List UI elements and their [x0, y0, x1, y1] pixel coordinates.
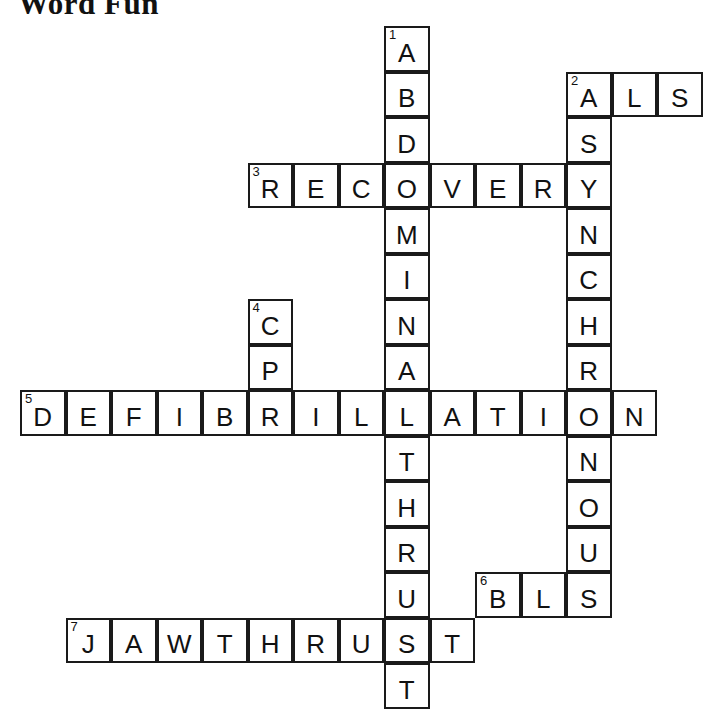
- crossword-cell[interactable]: B: [202, 390, 248, 436]
- cell-letter: L: [386, 402, 428, 432]
- cell-letter: T: [386, 675, 428, 705]
- crossword-cell[interactable]: O: [566, 390, 612, 436]
- crossword-cell[interactable]: C: [566, 254, 612, 300]
- cell-letter: P: [250, 356, 292, 386]
- crossword-cell[interactable]: O: [384, 163, 430, 209]
- crossword-cell[interactable]: T: [475, 390, 521, 436]
- crossword-cell[interactable]: N: [384, 299, 430, 345]
- crossword-cell[interactable]: L: [339, 390, 385, 436]
- cell-letter: T: [204, 629, 246, 659]
- cell-letter: I: [295, 402, 337, 432]
- cell-letter: R: [250, 174, 292, 204]
- crossword-cell[interactable]: N: [566, 208, 612, 254]
- crossword-cell[interactable]: H: [384, 481, 430, 527]
- crossword-cell[interactable]: R: [384, 527, 430, 573]
- cell-letter: I: [523, 402, 565, 432]
- crossword-cell[interactable]: R: [566, 345, 612, 391]
- crossword-cell[interactable]: D: [384, 117, 430, 163]
- crossword-cell[interactable]: T: [384, 663, 430, 709]
- cell-letter: A: [386, 38, 428, 68]
- crossword-cell[interactable]: W: [157, 618, 203, 664]
- crossword-cell[interactable]: S: [566, 117, 612, 163]
- cell-letter: V: [432, 174, 474, 204]
- crossword-cell[interactable]: P: [248, 345, 294, 391]
- crossword-cell[interactable]: R: [521, 163, 567, 209]
- cell-letter: R: [568, 356, 610, 386]
- crossword-cell[interactable]: M: [384, 208, 430, 254]
- cell-letter: I: [386, 265, 428, 295]
- crossword-cell[interactable]: N: [612, 390, 658, 436]
- cell-letter: S: [659, 83, 701, 113]
- crossword-cell[interactable]: T: [384, 436, 430, 482]
- cell-letter: A: [386, 356, 428, 386]
- crossword-cell[interactable]: C: [339, 163, 385, 209]
- crossword-cell[interactable]: I: [157, 390, 203, 436]
- crossword-cell[interactable]: 7J: [66, 618, 112, 664]
- cell-letter: S: [386, 629, 428, 659]
- crossword-cell[interactable]: T: [202, 618, 248, 664]
- crossword-cell[interactable]: A: [384, 345, 430, 391]
- crossword-cell[interactable]: F: [111, 390, 157, 436]
- crossword-cell[interactable]: 6B: [475, 572, 521, 618]
- cell-letter: R: [523, 174, 565, 204]
- crossword-cell[interactable]: V: [430, 163, 476, 209]
- cell-letter: S: [568, 129, 610, 159]
- crossword-cell[interactable]: L: [521, 572, 567, 618]
- crossword-cell[interactable]: O: [566, 481, 612, 527]
- crossword-cell[interactable]: U: [339, 618, 385, 664]
- cell-letter: L: [614, 83, 656, 113]
- cell-letter: H: [568, 311, 610, 341]
- crossword-cell[interactable]: Y: [566, 163, 612, 209]
- crossword-cell[interactable]: H: [566, 299, 612, 345]
- cell-letter: D: [22, 402, 64, 432]
- cell-letter: B: [477, 584, 519, 614]
- crossword-cell[interactable]: 5D: [20, 390, 66, 436]
- cell-letter: Y: [568, 174, 610, 204]
- cell-letter: U: [568, 538, 610, 568]
- cell-letter: H: [250, 629, 292, 659]
- cell-letter: C: [341, 174, 383, 204]
- crossword-cell[interactable]: U: [566, 527, 612, 573]
- cell-letter: W: [159, 629, 201, 659]
- crossword-cell[interactable]: E: [475, 163, 521, 209]
- crossword-cell[interactable]: A: [111, 618, 157, 664]
- crossword-cell[interactable]: S: [566, 572, 612, 618]
- cell-letter: U: [386, 584, 428, 614]
- crossword-cell[interactable]: I: [521, 390, 567, 436]
- cell-letter: A: [432, 402, 474, 432]
- cell-letter: L: [523, 584, 565, 614]
- crossword-cell[interactable]: L: [384, 390, 430, 436]
- crossword-cell[interactable]: I: [293, 390, 339, 436]
- crossword-cell[interactable]: E: [66, 390, 112, 436]
- crossword-cell[interactable]: B: [384, 72, 430, 118]
- cell-letter: C: [568, 265, 610, 295]
- crossword-cell[interactable]: T: [430, 618, 476, 664]
- cell-letter: E: [295, 174, 337, 204]
- crossword-cell[interactable]: 4C: [248, 299, 294, 345]
- crossword-cell[interactable]: N: [566, 436, 612, 482]
- crossword-cell[interactable]: I: [384, 254, 430, 300]
- crossword-cell[interactable]: 1A: [384, 26, 430, 72]
- crossword-cell[interactable]: S: [657, 72, 703, 118]
- cell-letter: J: [68, 629, 110, 659]
- cell-letter: F: [113, 402, 155, 432]
- cell-letter: T: [477, 402, 519, 432]
- crossword-cell[interactable]: 3R: [248, 163, 294, 209]
- crossword-cell[interactable]: H: [248, 618, 294, 664]
- cell-letter: O: [568, 493, 610, 523]
- cell-letter: R: [250, 402, 292, 432]
- crossword-cell[interactable]: 2A: [566, 72, 612, 118]
- crossword-cell[interactable]: A: [430, 390, 476, 436]
- cell-letter: D: [386, 129, 428, 159]
- crossword-cell[interactable]: R: [248, 390, 294, 436]
- cell-letter: R: [386, 538, 428, 568]
- crossword-cell[interactable]: L: [612, 72, 658, 118]
- crossword-cell[interactable]: R: [293, 618, 339, 664]
- crossword-cell[interactable]: S: [384, 618, 430, 664]
- crossword-cell[interactable]: U: [384, 572, 430, 618]
- cell-letter: S: [568, 584, 610, 614]
- cell-letter: O: [386, 174, 428, 204]
- crossword-cell[interactable]: E: [293, 163, 339, 209]
- cell-letter: L: [341, 402, 383, 432]
